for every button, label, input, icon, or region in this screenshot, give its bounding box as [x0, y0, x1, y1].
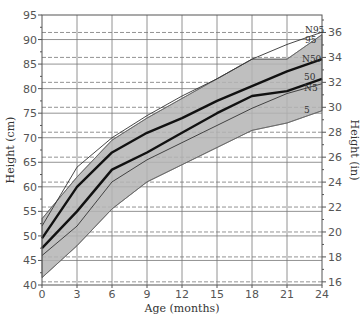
x-axis-ticks: 03691215182124 [39, 285, 330, 301]
right-tick-label: 28 [328, 126, 342, 139]
y-axis-title-right: Height (in) [348, 120, 361, 181]
x-tick-label: 15 [210, 288, 224, 301]
x-tick-label: 0 [39, 288, 46, 301]
curve-label-n5: N5 [304, 83, 318, 93]
left-tick-label: 60 [23, 181, 37, 194]
x-tick-label: 6 [109, 288, 116, 301]
left-tick-label: 75 [23, 107, 37, 120]
x-tick-label: 24 [315, 288, 329, 301]
left-tick-label: 85 [23, 58, 37, 71]
x-axis-title: Age (months) [144, 302, 220, 315]
left-tick-label: 70 [23, 132, 37, 145]
x-tick-label: 21 [280, 288, 294, 301]
curve-label-n50: N50 [302, 54, 322, 64]
left-axis-ticks: 404550556065707580859095 [23, 9, 42, 292]
right-tick-label: 20 [328, 226, 342, 239]
left-tick-label: 65 [23, 156, 37, 169]
growth-chart: 404550556065707580859095 161820222426283… [0, 0, 362, 320]
left-tick-label: 50 [23, 230, 37, 243]
right-tick-label: 18 [328, 251, 342, 264]
right-tick-label: 36 [328, 26, 342, 39]
right-axis-ticks: 1618202224262830323436 [322, 20, 342, 289]
right-tick-label: 24 [328, 176, 342, 189]
right-tick-label: 16 [328, 276, 342, 289]
x-tick-label: 3 [74, 288, 81, 301]
x-tick-label: 18 [245, 288, 259, 301]
right-tick-label: 34 [328, 51, 342, 64]
right-tick-label: 30 [328, 101, 342, 114]
left-tick-label: 90 [23, 34, 37, 47]
right-tick-label: 32 [328, 76, 342, 89]
left-tick-label: 55 [23, 205, 37, 218]
curve-label-5: 5 [304, 105, 310, 115]
y-axis-title-left: Height (cm) [4, 117, 17, 184]
left-tick-label: 95 [23, 9, 37, 22]
left-tick-label: 45 [23, 254, 37, 267]
right-tick-label: 26 [328, 151, 342, 164]
right-tick-label: 22 [328, 201, 342, 214]
left-tick-label: 80 [23, 83, 37, 96]
curve-label-50: 50 [304, 72, 316, 82]
x-tick-label: 9 [144, 288, 151, 301]
curve-label-95: 95 [305, 35, 317, 45]
left-tick-label: 40 [23, 279, 37, 292]
x-tick-label: 12 [175, 288, 189, 301]
curve-label-n95: N95 [305, 25, 325, 35]
